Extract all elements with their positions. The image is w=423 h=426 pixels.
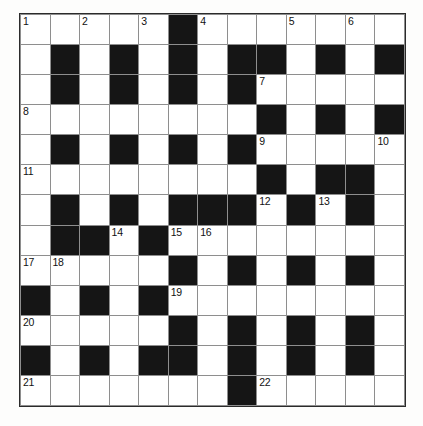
crossword-cell[interactable] [375, 75, 404, 104]
crossword-cell[interactable] [169, 105, 198, 134]
crossword-cell[interactable]: 3 [139, 15, 168, 44]
crossword-cell[interactable] [346, 376, 375, 405]
crossword-cell[interactable]: 4 [198, 15, 227, 44]
crossword-cell[interactable]: 8 [21, 105, 50, 134]
crossword-cell[interactable] [287, 135, 316, 164]
crossword-cell[interactable] [110, 165, 139, 194]
crossword-cell[interactable] [228, 226, 257, 255]
crossword-cell[interactable] [316, 346, 345, 375]
crossword-cell[interactable] [287, 75, 316, 104]
crossword-cell[interactable] [316, 256, 345, 285]
crossword-cell[interactable] [287, 286, 316, 315]
crossword-cell[interactable] [375, 346, 404, 375]
crossword-cell[interactable] [80, 256, 109, 285]
crossword-cell[interactable] [346, 105, 375, 134]
crossword-cell[interactable] [375, 256, 404, 285]
crossword-cell[interactable] [169, 376, 198, 405]
crossword-cell[interactable]: 22 [257, 376, 286, 405]
crossword-cell[interactable]: 13 [316, 195, 345, 224]
crossword-cell[interactable] [287, 165, 316, 194]
crossword-cell[interactable] [316, 376, 345, 405]
crossword-cell[interactable] [228, 286, 257, 315]
crossword-cell[interactable]: 17 [21, 256, 50, 285]
crossword-cell[interactable] [287, 376, 316, 405]
crossword-cell[interactable] [110, 376, 139, 405]
crossword-cell[interactable] [21, 226, 50, 255]
crossword-cell[interactable] [346, 226, 375, 255]
crossword-cell[interactable] [80, 105, 109, 134]
crossword-cell[interactable] [198, 256, 227, 285]
crossword-cell[interactable] [198, 135, 227, 164]
crossword-cell[interactable] [51, 15, 80, 44]
crossword-cell[interactable]: 14 [110, 226, 139, 255]
crossword-cell[interactable] [198, 165, 227, 194]
crossword-cell[interactable] [139, 105, 168, 134]
crossword-cell[interactable] [375, 195, 404, 224]
crossword-cell[interactable] [257, 226, 286, 255]
crossword-cell[interactable] [110, 316, 139, 345]
crossword-cell[interactable] [51, 376, 80, 405]
crossword-cell[interactable]: 18 [51, 256, 80, 285]
crossword-cell[interactable] [316, 135, 345, 164]
crossword-cell[interactable] [346, 286, 375, 315]
crossword-cell[interactable] [110, 105, 139, 134]
crossword-cell[interactable] [257, 256, 286, 285]
crossword-cell[interactable] [316, 15, 345, 44]
crossword-cell[interactable] [21, 45, 50, 74]
crossword-cell[interactable] [198, 346, 227, 375]
crossword-cell[interactable] [139, 195, 168, 224]
crossword-cell[interactable] [110, 15, 139, 44]
crossword-cell[interactable]: 12 [257, 195, 286, 224]
crossword-cell[interactable] [139, 45, 168, 74]
crossword-cell[interactable] [110, 256, 139, 285]
crossword-cell[interactable]: 20 [21, 316, 50, 345]
crossword-cell[interactable] [228, 105, 257, 134]
crossword-cell[interactable] [110, 346, 139, 375]
crossword-cell[interactable]: 19 [169, 286, 198, 315]
crossword-cell[interactable] [110, 286, 139, 315]
crossword-cell[interactable] [169, 165, 198, 194]
crossword-cell[interactable] [257, 15, 286, 44]
crossword-cell[interactable]: 2 [80, 15, 109, 44]
crossword-cell[interactable] [139, 165, 168, 194]
crossword-cell[interactable] [375, 15, 404, 44]
crossword-cell[interactable]: 16 [198, 226, 227, 255]
crossword-cell[interactable] [346, 135, 375, 164]
crossword-cell[interactable] [51, 105, 80, 134]
crossword-cell[interactable] [80, 135, 109, 164]
crossword-cell[interactable] [21, 75, 50, 104]
crossword-cell[interactable] [257, 316, 286, 345]
crossword-cell[interactable] [198, 286, 227, 315]
crossword-cell[interactable] [346, 75, 375, 104]
crossword-cell[interactable] [287, 105, 316, 134]
crossword-cell[interactable] [346, 45, 375, 74]
crossword-cell[interactable] [51, 316, 80, 345]
crossword-cell[interactable] [375, 165, 404, 194]
crossword-cell[interactable] [316, 75, 345, 104]
crossword-cell[interactable] [198, 316, 227, 345]
crossword-cell[interactable] [80, 165, 109, 194]
crossword-cell[interactable]: 9 [257, 135, 286, 164]
crossword-cell[interactable]: 6 [346, 15, 375, 44]
crossword-cell[interactable] [316, 286, 345, 315]
crossword-cell[interactable] [375, 286, 404, 315]
crossword-cell[interactable] [228, 15, 257, 44]
crossword-cell[interactable] [287, 45, 316, 74]
crossword-cell[interactable] [80, 316, 109, 345]
crossword-cell[interactable] [21, 195, 50, 224]
crossword-cell[interactable]: 10 [375, 135, 404, 164]
crossword-cell[interactable] [51, 286, 80, 315]
crossword-cell[interactable] [139, 316, 168, 345]
crossword-cell[interactable]: 11 [21, 165, 50, 194]
crossword-cell[interactable]: 5 [287, 15, 316, 44]
crossword-cell[interactable] [198, 376, 227, 405]
crossword-cell[interactable] [51, 165, 80, 194]
crossword-cell[interactable] [80, 195, 109, 224]
crossword-cell[interactable] [139, 376, 168, 405]
crossword-cell[interactable]: 7 [257, 75, 286, 104]
crossword-cell[interactable] [198, 45, 227, 74]
crossword-cell[interactable] [80, 376, 109, 405]
crossword-cell[interactable] [139, 75, 168, 104]
crossword-cell[interactable]: 15 [169, 226, 198, 255]
crossword-cell[interactable] [21, 135, 50, 164]
